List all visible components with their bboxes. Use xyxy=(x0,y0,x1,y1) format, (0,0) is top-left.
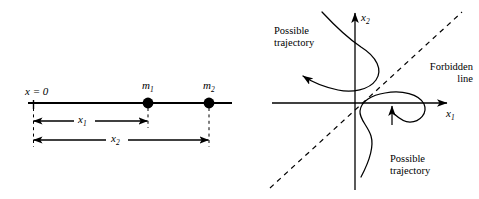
mass-2-symbol: m xyxy=(203,79,211,91)
mass-1-label: m1 xyxy=(142,80,154,94)
mass-2-subscript: 2 xyxy=(211,85,215,94)
mass-1-symbol: m xyxy=(142,79,150,91)
mass-2-dot xyxy=(204,98,215,109)
upper-trajectory-label: Possible trajectory xyxy=(274,25,314,50)
dimension-x2-subscript: 2 xyxy=(116,138,120,147)
left-panel-lineart xyxy=(28,98,232,147)
dimension-x1-label: x1 xyxy=(78,114,87,128)
lower-trajectory-label: Possible trajectory xyxy=(390,153,430,178)
mass-2-label: m2 xyxy=(203,80,215,94)
dimension-x2-label: x2 xyxy=(111,133,120,147)
physics-figure: x = 0 m1 m2 x1 x2 x2 x1 Possible traject… xyxy=(0,0,479,199)
x1-axis-label: x1 xyxy=(446,108,455,122)
x2-axis-subscript: 2 xyxy=(366,17,370,26)
x1-axis-subscript: 1 xyxy=(451,113,455,122)
origin-label: x = 0 xyxy=(25,86,48,97)
mass-1-subscript: 1 xyxy=(150,85,154,94)
x2-axis-label: x2 xyxy=(361,12,370,26)
forbidden-line-label: Forbidden line xyxy=(393,61,473,86)
dimension-x1-subscript: 1 xyxy=(83,119,87,128)
mass-1-dot xyxy=(143,98,154,109)
